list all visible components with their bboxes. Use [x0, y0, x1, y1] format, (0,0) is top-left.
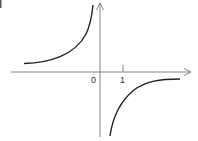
cropped-label-mark [0, 0, 2, 8]
origin-label: 0 [91, 75, 96, 85]
curve-branch-right [110, 79, 180, 136]
curve-branch-left [24, 5, 93, 64]
x-axis [11, 69, 191, 76]
y-axis [97, 3, 104, 137]
tick-one-label: 1 [120, 75, 125, 85]
graph-figure [0, 0, 198, 141]
